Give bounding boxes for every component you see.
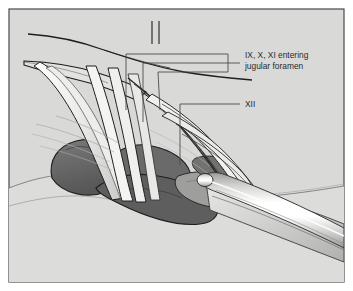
label-group-cn-9-10-11: IX, X, XI entering jugular foramen bbox=[244, 50, 309, 71]
label-cn-9-10-11-line-1: IX, X, XI entering bbox=[245, 50, 309, 60]
label-cn-9-10-11-line-2: jugular foramen bbox=[244, 61, 304, 71]
instrument-tip bbox=[197, 174, 213, 187]
anatomy-figure: IX, X, XI entering jugular foramen XII bbox=[0, 0, 353, 291]
illustration-canvas: IX, X, XI entering jugular foramen XII bbox=[0, 0, 353, 291]
label-cn-12-line-1: XII bbox=[245, 99, 255, 109]
label-group-cn-12: XII bbox=[245, 99, 255, 109]
